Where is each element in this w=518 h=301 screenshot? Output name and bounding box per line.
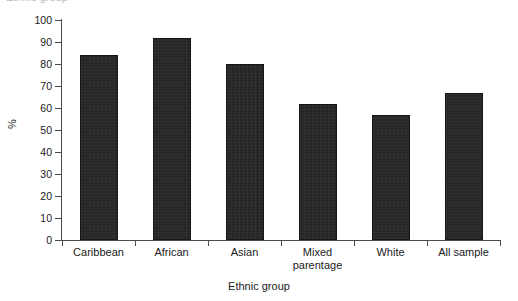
y-axis-tick-label: 30	[22, 169, 52, 180]
y-axis-tick-label: 70	[22, 81, 52, 92]
y-axis-tick-label-wrap: 10	[18, 213, 52, 224]
y-axis-tick-label: 90	[22, 37, 52, 48]
y-axis-tick	[55, 130, 61, 131]
y-axis-tick-label: 50	[22, 125, 52, 136]
y-axis-tick-label: 40	[22, 147, 52, 158]
x-axis-category-label: All sample	[418, 246, 510, 259]
bar	[226, 64, 264, 240]
y-axis-tick	[55, 64, 61, 65]
y-axis-tick-label-wrap: 0	[18, 235, 52, 246]
y-axis-tick-label-wrap: 30	[18, 169, 52, 180]
y-axis-tick-label: 100	[22, 15, 52, 26]
y-axis-title: %	[6, 110, 18, 138]
y-axis-tick	[55, 218, 61, 219]
y-axis-tick-label-wrap: 60	[18, 103, 52, 114]
y-axis-tick	[55, 20, 61, 21]
cropped-header-label: Ethnic group	[6, 0, 68, 3]
bar-chart-figure: Ethnic group 0102030405060708090100 Cari…	[0, 0, 518, 301]
y-axis-tick	[55, 42, 61, 43]
x-axis-category-label-line: All sample	[418, 246, 510, 259]
y-axis-tick	[55, 174, 61, 175]
bar	[445, 93, 483, 240]
y-axis-tick-label: 60	[22, 103, 52, 114]
y-axis-tick-label-wrap: 100	[18, 15, 52, 26]
x-axis-category-label-line: parentage	[272, 259, 364, 272]
bar	[80, 55, 118, 240]
y-axis-tick	[55, 240, 61, 241]
y-axis-tick-label-wrap: 80	[18, 59, 52, 70]
y-axis-tick	[55, 108, 61, 109]
y-axis-tick-label-wrap: 20	[18, 191, 52, 202]
y-axis-tick	[55, 196, 61, 197]
y-axis-tick-label-wrap: 70	[18, 81, 52, 92]
y-axis-tick-label: 20	[22, 191, 52, 202]
y-axis-tick	[55, 86, 61, 87]
bar	[372, 115, 410, 240]
y-axis-tick	[55, 152, 61, 153]
y-axis-tick-label-wrap: 40	[18, 147, 52, 158]
y-axis-tick-label-wrap: 90	[18, 37, 52, 48]
y-axis-tick-label: 80	[22, 59, 52, 70]
y-axis-tick-label: 0	[22, 235, 52, 246]
y-axis-tick-label: 10	[22, 213, 52, 224]
bar	[153, 38, 191, 240]
y-axis-tick-label-wrap: 50	[18, 125, 52, 136]
plot-area	[62, 20, 500, 240]
x-axis-title: Ethnic group	[0, 280, 518, 292]
cropped-header-text: Ethnic group	[0, 0, 518, 7]
bar	[299, 104, 337, 240]
